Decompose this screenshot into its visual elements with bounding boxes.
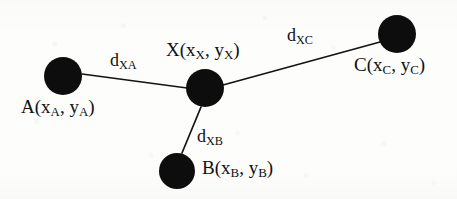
edge-label-xb-sub: XB (206, 134, 223, 148)
edge-label-xc-letter: d (287, 25, 296, 45)
node-label-x: X(xX, yX) (166, 40, 240, 62)
node-a (44, 57, 82, 95)
node-label-x-y: yX (214, 39, 233, 60)
node-label-b-x: xB (221, 157, 239, 178)
edge-label-xb-letter: d (197, 126, 206, 146)
node-label-a-x: xA (41, 96, 60, 117)
edge-label-xa-sub: XA (119, 58, 137, 72)
node-label-b-letter: B (202, 157, 215, 178)
node-label-x-x: xX (186, 39, 205, 60)
node-label-c: C(xC, yC) (354, 55, 425, 77)
node-label-b-y: yB (249, 157, 267, 178)
trilateration-diagram: A(xA, yA) X(xX, yX) B(xB, yB) C(xC, yC) … (0, 0, 457, 199)
edge-x-a (82, 74, 187, 88)
node-label-b: B(xB, yB) (202, 158, 273, 180)
edge-label-xa-letter: d (110, 50, 119, 70)
edge-label-xb: dXB (197, 127, 223, 147)
node-label-a: A(xA, yA) (21, 97, 95, 119)
node-label-a-y: yA (69, 96, 88, 117)
node-c (378, 15, 416, 53)
node-label-x-letter: X (166, 39, 180, 60)
node-b (159, 153, 195, 189)
node-label-c-letter: C (354, 54, 367, 75)
node-label-c-x: xC (373, 54, 391, 75)
edge-label-xc: dXC (287, 26, 313, 46)
edge-label-xa: dXA (110, 51, 137, 71)
node-x (186, 69, 224, 107)
node-label-c-y: yC (401, 54, 419, 75)
node-label-a-letter: A (21, 96, 35, 117)
edge-label-xc-sub: XC (296, 33, 313, 47)
